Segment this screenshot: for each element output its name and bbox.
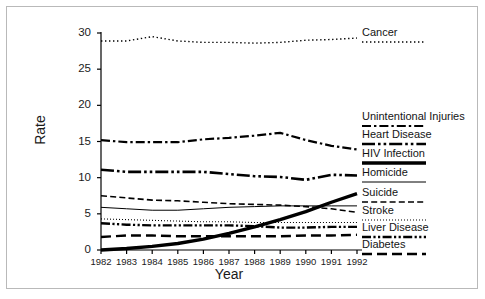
legend-item-suicide[interactable]: Suicide	[362, 186, 484, 205]
y-tick-label: 30	[65, 26, 91, 38]
legend-item-label: Homicide	[362, 166, 484, 178]
chart-figure: Rate Year 051015202530 19821983198419851…	[0, 0, 485, 299]
legend-item-diabetes[interactable]: Diabetes	[362, 238, 484, 257]
data-series-group	[101, 37, 357, 250]
series-line-cancer	[101, 37, 357, 44]
legend-swatch-long-dash	[362, 251, 426, 257]
legend-swatch-thin-solid	[362, 179, 426, 185]
legend-item-hiv-infection[interactable]: HIV Infection	[362, 147, 484, 166]
legend-item-label: Unintentional Injuries	[362, 110, 484, 122]
legend-item-label: HIV Infection	[362, 147, 484, 159]
x-axis-title: Year	[100, 266, 358, 282]
y-tick-label: 0	[65, 243, 91, 255]
y-tick-label: 25	[65, 62, 91, 74]
series-line-diabetes	[101, 235, 357, 237]
legend-item-label: Heart Disease	[362, 128, 484, 140]
y-tick-label: 15	[65, 135, 91, 147]
legend-item-label: Cancer	[362, 26, 484, 38]
series-line-hiv-infection	[101, 194, 357, 250]
y-tick-label: 20	[65, 98, 91, 110]
legend-item-heart-disease[interactable]: Heart Disease	[362, 128, 484, 147]
y-tick-label: 10	[65, 171, 91, 183]
series-line-stroke	[101, 219, 357, 223]
legend-item-unintentional-injuries[interactable]: Unintentional Injuries	[362, 110, 484, 129]
series-line-heart-disease	[101, 170, 357, 180]
series-line-liver-disease	[101, 223, 357, 227]
legend-item-homicide[interactable]: Homicide	[362, 166, 484, 185]
legend-item-label: Stroke	[362, 204, 484, 216]
y-tick-label: 5	[65, 207, 91, 219]
legend-item-label: Suicide	[362, 186, 484, 198]
legend-swatch-dotted	[362, 39, 426, 45]
legend-item-label: Liver Disease	[362, 221, 484, 233]
legend-item-cancer[interactable]: Cancer	[362, 26, 484, 45]
y-axis-title: Rate	[32, 80, 48, 180]
legend-item-label: Diabetes	[362, 238, 484, 250]
x-tick-label: 1992	[342, 256, 372, 267]
series-line-unintentional-injuries	[101, 133, 357, 150]
